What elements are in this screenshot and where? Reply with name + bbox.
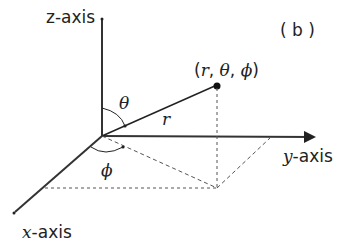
spherical-coordinates-diagram: z-axis y-axis x-axis ( b ) (r, θ, ϕ) r θ… bbox=[0, 0, 345, 244]
theta-arc-arrow bbox=[123, 124, 126, 127]
phi-arc bbox=[91, 147, 123, 152]
x-axis-tip bbox=[13, 212, 16, 215]
x-axis-label: x-axis bbox=[22, 222, 72, 242]
x-axis-line bbox=[15, 136, 102, 212]
theta-label: θ bbox=[119, 93, 129, 113]
y-axis-label: y-axis bbox=[282, 146, 333, 166]
y-axis-line bbox=[102, 136, 314, 137]
point-coordinates-label: (r, θ, ϕ) bbox=[194, 60, 259, 80]
panel-label: ( b ) bbox=[280, 20, 315, 40]
radius-label: r bbox=[162, 109, 171, 129]
z-axis-tip bbox=[101, 18, 104, 21]
phi-label: ϕ bbox=[101, 160, 113, 180]
y-parallel-dash bbox=[217, 138, 270, 188]
phi-arc-arrow bbox=[121, 145, 124, 148]
z-axis-label: z-axis bbox=[46, 7, 95, 27]
xy-projection bbox=[102, 136, 217, 188]
